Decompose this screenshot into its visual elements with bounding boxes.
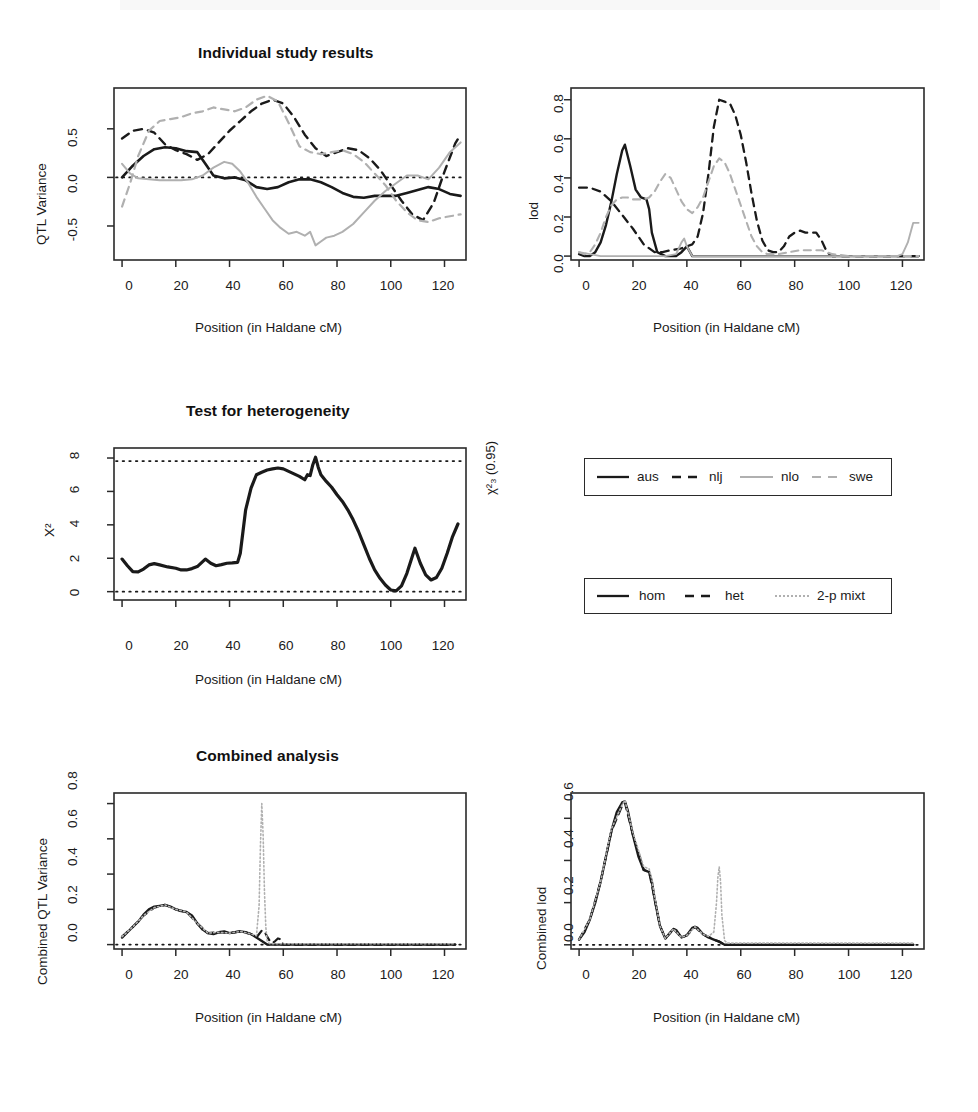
xtick-lod-2: 40 — [671, 278, 711, 293]
xtick-cq-6: 120 — [423, 967, 463, 982]
xtick-cl-2: 40 — [671, 967, 711, 982]
panel-combined-qtl-variance: Combined analysis Combined QTL Variance … — [0, 735, 500, 1095]
xtick-cl-5: 100 — [829, 967, 869, 982]
plot-individual-qtl-variance — [0, 60, 500, 310]
xtick-cq-1: 20 — [161, 967, 201, 982]
legend-label-swe: swe — [849, 469, 873, 484]
legend-label-2p-mixt: 2-p mixt — [817, 588, 865, 603]
series-nlj — [579, 100, 919, 256]
xtick-cl-3: 60 — [724, 967, 764, 982]
series-x2 — [122, 457, 458, 591]
series-group — [122, 96, 461, 246]
xtick-cl-1: 20 — [619, 967, 659, 982]
plot-frame — [571, 793, 924, 949]
xtick-cq-4: 80 — [318, 967, 358, 982]
xtick-het-0: 0 — [109, 638, 149, 653]
plot-frame — [114, 793, 466, 949]
xtick-cq-0: 0 — [109, 967, 149, 982]
scan-artifact — [120, 0, 940, 10]
series-2-p-mixt — [122, 804, 455, 944]
series-group — [579, 800, 913, 944]
xtick-het-4: 80 — [318, 638, 358, 653]
axis-label-x-individual-qtl: Position (in Haldane cM) — [195, 320, 342, 335]
xtick-het-6: 120 — [423, 638, 463, 653]
xtick-cq-3: 60 — [266, 967, 306, 982]
series-group — [579, 100, 919, 256]
xtick-0: 0 — [109, 278, 149, 293]
xtick-6: 120 — [423, 278, 463, 293]
plot-test-for-heterogeneity — [0, 420, 500, 650]
xtick-cl-6: 120 — [881, 967, 921, 982]
axis-label-x-combined-lod: Position (in Haldane cM) — [653, 1010, 800, 1025]
xtick-cq-5: 100 — [371, 967, 411, 982]
xtick-lod-0: 0 — [566, 278, 606, 293]
legend-label-nlj: nlj — [709, 469, 723, 484]
plot-combined-lod — [490, 765, 978, 983]
panel-test-for-heterogeneity: Test for heterogeneity X² 0 2 4 6 8 χ²₃ … — [0, 390, 520, 700]
figure-root: Individual study results QTL Variance 0.… — [0, 0, 978, 1112]
plot-combined-qtl-variance — [0, 765, 500, 983]
series-nlo — [122, 142, 461, 245]
xtick-1: 20 — [161, 278, 201, 293]
xtick-het-3: 60 — [266, 638, 306, 653]
series-group — [122, 457, 458, 591]
legend-study-lines — [585, 459, 891, 495]
xtick-lod-5: 100 — [829, 278, 869, 293]
axis-label-x-combined-qtl: Position (in Haldane cM) — [195, 1010, 342, 1025]
legend-model: hom het 2-p mixt — [584, 578, 892, 614]
xtick-5: 100 — [371, 278, 411, 293]
xtick-cl-0: 0 — [566, 967, 606, 982]
panel-title-combined: Combined analysis — [196, 747, 339, 765]
xtick-lod-6: 120 — [881, 278, 921, 293]
legend-label-aus: aus — [637, 469, 659, 484]
xtick-het-2: 40 — [213, 638, 253, 653]
xtick-lod-4: 80 — [776, 278, 816, 293]
series-hom — [122, 905, 455, 945]
series-het — [579, 802, 913, 944]
series-aus — [579, 145, 919, 256]
panel-individual-qtl-variance: Individual study results QTL Variance 0.… — [0, 30, 500, 360]
legend-label-nlo: nlo — [781, 469, 799, 484]
xtick-2: 40 — [213, 278, 253, 293]
series-group — [122, 804, 455, 945]
axis-label-x-heterogeneity: Position (in Haldane cM) — [195, 672, 342, 687]
plot-individual-lod — [490, 60, 978, 310]
xtick-het-1: 20 — [161, 638, 201, 653]
panel-individual-lod: lod 0.0 0.2 0.4 0.6 0.8 0 20 40 60 80 10… — [490, 30, 978, 360]
axis-label-x-individual-lod: Position (in Haldane cM) — [653, 320, 800, 335]
xtick-lod-3: 60 — [724, 278, 764, 293]
xtick-het-5: 100 — [371, 638, 411, 653]
xtick-3: 60 — [266, 278, 306, 293]
xtick-cl-4: 80 — [776, 967, 816, 982]
panel-title-heterogeneity: Test for heterogeneity — [186, 402, 350, 420]
xtick-lod-1: 20 — [619, 278, 659, 293]
series-het — [122, 905, 455, 945]
legend-label-hom: hom — [639, 588, 665, 603]
xtick-cq-2: 40 — [213, 967, 253, 982]
legend-label-het: het — [725, 588, 744, 603]
series-aus — [122, 147, 461, 198]
xtick-4: 80 — [318, 278, 358, 293]
panel-combined-lod: Combined lod 0.0 0.2 0.4 0.6 0 20 40 60 … — [490, 735, 978, 1095]
legend-study: aus nlj nlo swe — [584, 458, 892, 496]
